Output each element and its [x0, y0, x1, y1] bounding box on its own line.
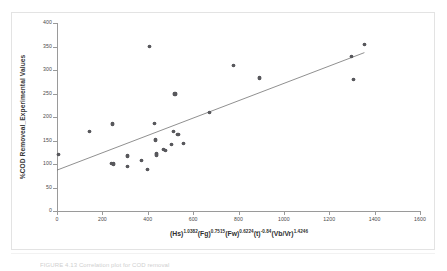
- x-tick-mark: [57, 211, 58, 215]
- data-point: [112, 162, 115, 165]
- y-tick-mark: [53, 23, 57, 24]
- y-tick-label: 350: [43, 44, 52, 49]
- x-title-term: (Fw): [225, 230, 239, 237]
- data-point: [148, 45, 151, 48]
- x-tick-label: 0: [56, 217, 59, 222]
- x-tick-mark: [284, 211, 285, 215]
- figure-root: %COD Removeal_Experimental Values (Hs)1.…: [0, 0, 447, 271]
- x-title-exponent: 0.7515: [211, 229, 225, 234]
- data-point: [88, 130, 91, 133]
- x-tick-label: 1400: [369, 217, 381, 222]
- y-tick-mark: [53, 188, 57, 189]
- x-title-exponent: 1.4246: [294, 229, 308, 234]
- x-title-term: (Vb/Vr): [271, 230, 293, 237]
- x-title-term: (Fg): [198, 230, 211, 237]
- x-tick-mark: [239, 211, 240, 215]
- y-tick-label: 150: [43, 138, 52, 143]
- data-point: [57, 153, 60, 156]
- x-tick-mark: [102, 211, 103, 215]
- y-tick-mark: [53, 94, 57, 95]
- x-title-exponent: -0.84: [261, 229, 272, 234]
- x-tick-label: 400: [143, 217, 152, 222]
- y-axis-title: %COD Removeal_Experimental Values: [18, 23, 28, 211]
- x-tick-label: 800: [234, 217, 243, 222]
- data-point: [258, 76, 261, 79]
- y-tick-mark: [53, 141, 57, 142]
- x-tick-mark: [329, 211, 330, 215]
- y-tick-label: 50: [46, 185, 52, 190]
- y-tick-mark: [53, 164, 57, 165]
- plot-area: [57, 23, 420, 211]
- data-point: [126, 154, 129, 157]
- y-tick-label: 100: [43, 161, 52, 166]
- x-tick-mark: [148, 211, 149, 215]
- x-title-term: (Hs): [170, 230, 183, 237]
- x-title-term: (t): [254, 230, 261, 237]
- trendline: [57, 23, 420, 211]
- y-tick-label: 200: [43, 114, 52, 119]
- data-point: [146, 168, 149, 171]
- y-tick-mark: [53, 47, 57, 48]
- x-tick-mark: [193, 211, 194, 215]
- figure-caption: FIGURE 4.13 Correlation plot for COD rem…: [40, 262, 420, 271]
- x-tick-label: 600: [189, 217, 198, 222]
- caption-divider: [11, 253, 435, 254]
- y-tick-mark: [53, 70, 57, 71]
- y-tick-label: 0: [49, 208, 52, 213]
- x-tick-mark: [375, 211, 376, 215]
- y-tick-label: 300: [43, 67, 52, 72]
- x-axis-title: (Hs)1.0382(Fg)0.7515(Fw)0.6224(t)-0.84(V…: [57, 230, 421, 237]
- x-tick-label: 1600: [414, 217, 426, 222]
- y-tick-mark: [53, 117, 57, 118]
- data-point: [176, 133, 179, 136]
- data-point: [172, 130, 175, 133]
- x-title-exponent: 1.0382: [183, 229, 197, 234]
- y-tick-label: 400: [43, 20, 52, 25]
- x-tick-label: 200: [98, 217, 107, 222]
- data-point: [111, 122, 114, 125]
- x-tick-mark: [420, 211, 421, 215]
- x-tick-label: 1200: [323, 217, 335, 222]
- data-point: [182, 142, 185, 145]
- data-point: [173, 92, 176, 95]
- data-point: [154, 138, 157, 141]
- x-title-exponent: 0.6224: [239, 229, 253, 234]
- y-tick-label: 250: [43, 91, 52, 96]
- x-tick-label: 1000: [278, 217, 290, 222]
- data-point: [153, 122, 156, 125]
